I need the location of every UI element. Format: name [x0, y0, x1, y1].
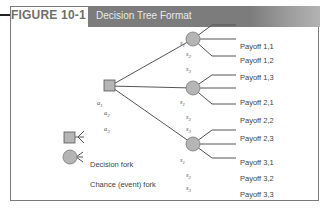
legend-decision-label: Decision fork [90, 160, 134, 169]
state-label: s3 [186, 65, 192, 74]
state-label: s3 [186, 184, 192, 193]
state-label: s1 [180, 98, 185, 107]
action-label-2: a2 [104, 109, 110, 118]
chance-node-3 [186, 137, 200, 151]
state-label: s3 [186, 125, 192, 134]
chance-node-2 [186, 81, 200, 95]
chance-node-1 [186, 32, 200, 46]
action-branch-3 [110, 86, 193, 144]
legend-chance-label: Chance (event) fork [90, 180, 156, 189]
action-label-3: a3 [104, 125, 110, 134]
payoff-label: Payoff 2,3 [240, 134, 274, 143]
state-label: s1 [180, 156, 185, 165]
payoff-label: Payoff 1,1 [240, 42, 274, 51]
payoff-label: Payoff 2,2 [240, 116, 274, 125]
state-label: s2 [186, 113, 192, 122]
decision-tree-diagram: a1 a2 a3 s1 s2 s3 Payoff 1,1 Payoff 1,2 … [0, 0, 322, 210]
payoff-label: Payoff 3,1 [240, 158, 274, 167]
payoff-label: Payoff 1,2 [240, 56, 274, 65]
decision-node-square [104, 80, 115, 91]
state-label: s2 [186, 50, 192, 59]
payoff-label: Payoff 3,3 [240, 190, 274, 199]
legend-chance-circle-icon [63, 150, 77, 164]
action-branch-1 [110, 39, 193, 86]
action-label-1: a1 [97, 99, 103, 108]
payoff-label: Payoff 2,1 [240, 98, 274, 107]
action-branch-2 [110, 86, 193, 88]
state-label: s2 [186, 171, 192, 180]
payoff-label: Payoff 1,3 [240, 73, 274, 82]
legend-decision-square-icon [64, 132, 75, 143]
payoff-label: Payoff 3,2 [240, 174, 274, 183]
